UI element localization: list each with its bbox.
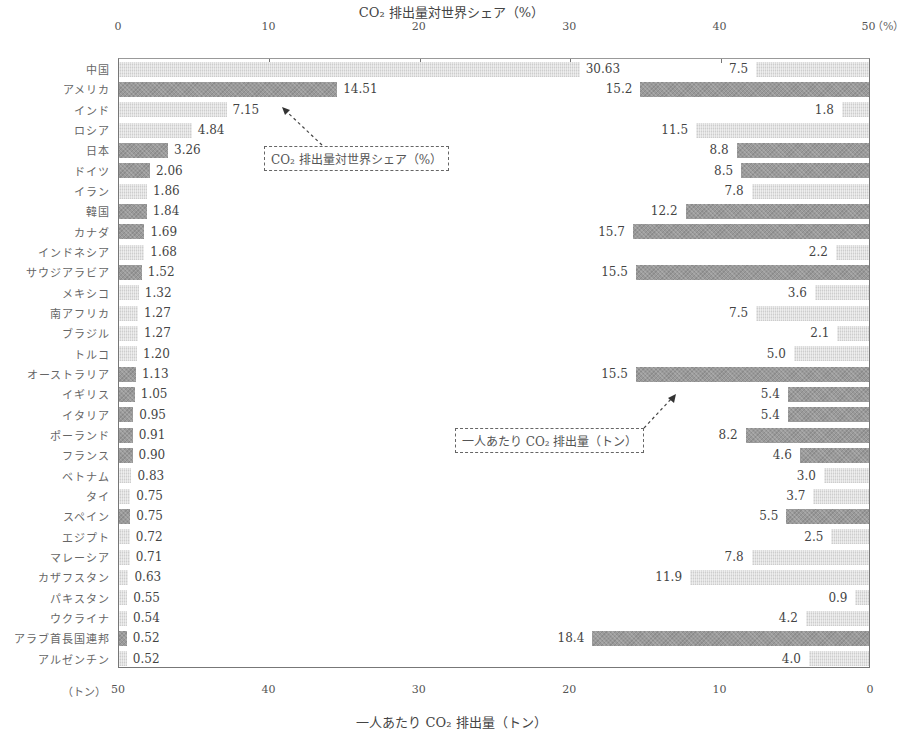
country-label: イタリア [62,407,110,423]
share-value-label: 0.75 [136,509,163,523]
country-label: メキシコ [62,285,110,301]
per-capita-bar [756,62,869,77]
share-bar [119,489,130,504]
country-label: ベトナム [62,468,110,484]
per-capita-value-label: 3.7 [786,489,805,503]
country-label: ブラジル [62,325,110,341]
per-capita-bar [690,570,869,585]
per-capita-value-label: 2.2 [809,245,828,259]
per-capita-value-label: 8.8 [710,143,729,157]
top-tick-label: 20 [412,20,426,33]
share-value-label: 0.95 [139,408,166,422]
per-capita-value-label: 15.5 [601,367,628,381]
per-capita-bar [842,102,869,117]
per-capita-bar [636,265,869,280]
callout-percap: 一人あたり CO₂ 排出量（トン） [455,428,644,453]
per-capita-value-label: 7.8 [725,550,744,564]
share-value-label: 4.84 [198,123,225,137]
per-capita-value-label: 11.9 [655,570,682,584]
per-capita-bar [788,407,869,422]
per-capita-value-label: 4.2 [779,611,798,625]
share-bar [119,428,133,443]
per-capita-value-label: 15.2 [606,82,633,96]
share-value-label: 0.52 [133,652,160,666]
share-value-label: 0.63 [134,570,161,584]
per-capita-value-label: 5.0 [767,347,786,361]
chart-row: 1.055.4 [119,384,869,404]
chart-row: 0.544.2 [119,608,869,628]
per-capita-value-label: 7.5 [729,306,748,320]
share-value-label: 0.52 [133,631,160,645]
top-tick-label: 0 [115,20,122,33]
share-value-label: 0.75 [136,489,163,503]
per-capita-bar [806,611,869,626]
country-label: オーストラリア [27,366,110,382]
top-axis-title: CO₂ 排出量対世界シェア（%） [0,2,903,21]
share-bar [119,245,144,260]
share-bar [119,143,168,158]
bottom-tick-label: 40 [261,683,275,696]
country-label: マレーシア [50,549,110,565]
per-capita-bar [836,245,869,260]
chart-row: 1.1315.5 [119,364,869,384]
per-capita-bar [831,529,869,544]
share-value-label: 7.15 [233,103,260,117]
share-value-label: 1.32 [145,286,172,300]
per-capita-value-label: 7.8 [725,184,744,198]
country-label: カザフスタン [38,569,110,585]
share-value-label: 0.54 [133,611,160,625]
bottom-tick-label: 20 [562,683,576,696]
chart-row: 1.5215.5 [119,262,869,282]
country-label: タイ [86,488,110,504]
chart-row: 0.6311.9 [119,567,869,587]
chart-row: 14.5115.2 [119,79,869,99]
country-label: 中国 [86,61,110,77]
per-capita-value-label: 4.6 [773,448,792,462]
country-label: アラブ首長国連邦 [14,630,110,646]
share-value-label: 1.13 [142,367,169,381]
share-value-label: 1.20 [143,347,170,361]
chart-row: 1.8412.2 [119,201,869,221]
country-label: ウクライナ [50,610,110,626]
per-capita-bar [741,163,869,178]
share-value-label: 1.68 [150,245,177,259]
chart-row: 0.755.5 [119,506,869,526]
top-tick-label: 10 [261,20,275,33]
top-tick-label: 30 [562,20,576,33]
share-value-label: 0.91 [139,428,166,442]
chart-row: 0.753.7 [119,486,869,506]
callout-share-arrow-icon [280,105,330,149]
chart-row: 0.722.5 [119,527,869,547]
chart-row: 3.268.8 [119,140,869,160]
per-capita-value-label: 12.2 [651,204,678,218]
callout-share: CO₂ 排出量対世界シェア（%） [264,146,449,171]
per-capita-bar [756,306,869,321]
per-capita-value-label: 4.0 [782,652,801,666]
share-bar [119,550,130,565]
chart-row: 0.550.9 [119,588,869,608]
share-bar [119,346,137,361]
per-capita-value-label: 8.5 [714,164,733,178]
chart-row: 1.323.6 [119,283,869,303]
share-bar [119,82,337,97]
share-bar [119,611,127,626]
share-bar [119,509,130,524]
per-capita-value-label: 11.5 [661,123,688,137]
share-bar [119,387,135,402]
country-label: ポーランド [50,427,110,443]
country-label: アメリカ [63,81,110,97]
per-capita-value-label: 3.6 [788,286,807,300]
country-label: エジプト [62,529,110,545]
share-bar [119,570,128,585]
country-label: ドイツ [74,163,110,179]
per-capita-bar [737,143,869,158]
per-capita-bar [686,204,869,219]
country-label: 南アフリカ [50,305,110,321]
bottom-tick-label: 50 [111,683,125,696]
chart-row: 7.151.8 [119,100,869,120]
country-label: スペイン [63,508,110,524]
share-value-label: 1.05 [141,387,168,401]
share-bar [119,163,150,178]
chart-row: 0.833.0 [119,466,869,486]
share-bar [119,62,580,77]
